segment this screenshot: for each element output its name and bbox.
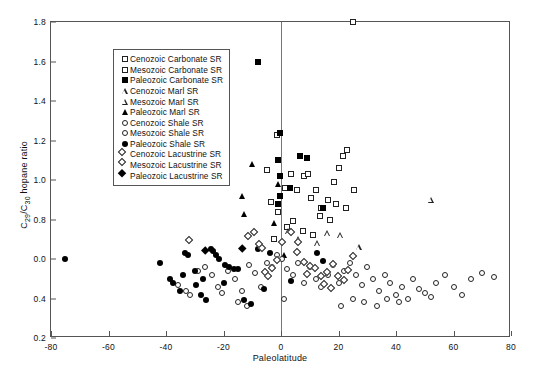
data-point: [321, 276, 327, 282]
y-tick-mark: [51, 140, 56, 141]
data-point: [318, 205, 324, 211]
data-point: [491, 274, 497, 280]
legend-label: Mesozoic Lacustrine SR: [130, 161, 222, 169]
y-axis-title: C29/C30 hopane ratio: [19, 100, 31, 270]
data-point: [244, 303, 250, 309]
data-point: [213, 252, 219, 258]
data-point: [479, 270, 485, 276]
marker-square-filled: [304, 155, 310, 161]
data-point: [313, 276, 319, 282]
marker-diamond-open: [334, 272, 342, 280]
data-point: [198, 292, 204, 298]
marker-square-open: [308, 195, 314, 201]
y-tick-mark: [51, 180, 56, 181]
data-point: [336, 165, 342, 171]
data-point: [170, 280, 176, 286]
marker-triangle-filled: [122, 109, 128, 115]
marker-circle-filled: [192, 268, 198, 274]
marker-circle-open: [235, 299, 241, 305]
marker-circle-open: [374, 303, 380, 309]
x-tick-mark: [51, 331, 52, 336]
marker-circle-filled: [248, 301, 254, 307]
marker-circle-open: [290, 272, 296, 278]
data-point: [304, 262, 310, 268]
legend-marker: [119, 173, 130, 179]
marker-circle-open: [422, 290, 428, 296]
y-tick-mark: [51, 22, 56, 23]
y-tick-label: 0.4: [6, 294, 51, 303]
data-point: [241, 211, 247, 217]
marker-circle-filled: [210, 248, 216, 254]
marker-circle-filled: [222, 262, 228, 268]
marker-circle-open: [318, 284, 324, 290]
marker-circle-filled: [182, 250, 188, 256]
marker-circle-filled: [200, 276, 206, 282]
marker-diamond-open: [340, 275, 348, 283]
data-point: [261, 286, 267, 292]
marker-square-open: [300, 228, 306, 234]
marker-diamond-open: [258, 244, 266, 252]
data-point: [221, 280, 227, 286]
data-point: [331, 179, 337, 185]
data-point: [62, 256, 68, 262]
y-tick-label: 0.8: [6, 215, 51, 224]
y-tick-label: 0.0: [6, 255, 51, 264]
data-point: [242, 248, 248, 254]
data-point: [274, 252, 280, 258]
data-point: [315, 268, 321, 274]
data-point: [287, 185, 293, 191]
data-point: [344, 280, 350, 286]
data-point: [344, 147, 350, 153]
data-point: [205, 250, 211, 256]
data-point: [314, 250, 320, 256]
marker-square-filled: [287, 185, 293, 191]
x-tick-mark: [396, 331, 397, 336]
marker-circle-open: [258, 284, 264, 290]
data-point: [353, 272, 359, 278]
data-point: [399, 284, 405, 290]
marker-circle-filled: [213, 252, 219, 258]
y-tick-label: 1.8: [6, 18, 51, 27]
marker-square-open: [268, 199, 274, 205]
data-point: [301, 173, 307, 179]
marker-triangle-open: [356, 244, 362, 250]
data-point: [320, 258, 326, 264]
x-tick-mark: [339, 331, 340, 336]
legend-item: Mesozoic Shale SR: [119, 128, 223, 139]
marker-circle-filled: [157, 260, 163, 266]
marker-circle-open: [405, 296, 411, 302]
data-point: [200, 276, 206, 282]
zero-reference-line: [281, 22, 282, 336]
y-tick-mark: [51, 259, 56, 260]
data-point: [459, 292, 465, 298]
marker-circle-filled: [198, 292, 204, 298]
marker-circle-open: [491, 274, 497, 280]
y-tick-mark: [51, 298, 56, 299]
legend-label: Cenozoic Carbonate SR: [130, 55, 222, 63]
data-point: [384, 296, 390, 302]
data-point: [416, 286, 422, 292]
marker-circle-open: [122, 120, 128, 126]
data-point: [193, 282, 199, 288]
data-point: [337, 232, 343, 238]
marker-square-open: [340, 153, 346, 159]
marker-circle-open: [246, 262, 252, 268]
data-point: [203, 297, 209, 303]
legend-item: Cenozoic Lacustrine SR: [119, 149, 223, 160]
marker-circle-filled: [177, 288, 183, 294]
data-point: [340, 153, 346, 159]
legend-marker: [119, 77, 130, 83]
data-point: [258, 284, 264, 290]
marker-circle-filled: [208, 246, 214, 252]
marker-square-open: [318, 205, 324, 211]
data-point: [351, 187, 357, 193]
data-point: [350, 296, 356, 302]
marker-square-open: [284, 224, 290, 230]
data-point: [291, 232, 297, 238]
marker-circle-open: [252, 270, 258, 276]
data-point: [183, 288, 189, 294]
marker-circle-open: [225, 268, 231, 274]
marker-circle-open: [399, 284, 405, 290]
x-tick-mark: [454, 331, 455, 336]
x-tick-mark: [281, 331, 282, 336]
